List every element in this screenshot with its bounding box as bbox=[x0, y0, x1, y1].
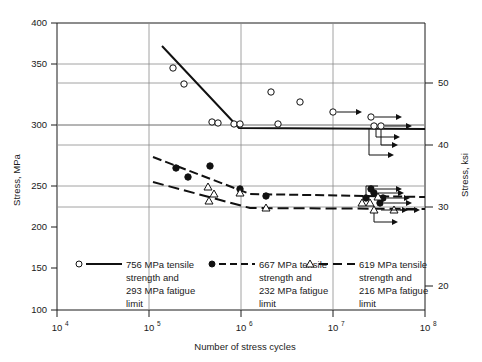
data-point bbox=[181, 81, 187, 87]
data-point bbox=[173, 165, 179, 171]
runout-arrowhead bbox=[356, 109, 362, 115]
ytick-right-label-30: 30 bbox=[438, 201, 449, 212]
ytick-label-150: 150 bbox=[31, 262, 47, 273]
right-axis-ticks bbox=[425, 83, 433, 286]
ytick-right-label-20: 20 bbox=[438, 280, 449, 291]
y-axis-title-left: Stress, MPa bbox=[11, 153, 22, 205]
x-axis-title: Number of stress cycles bbox=[194, 341, 296, 352]
runout-arrowhead bbox=[406, 200, 412, 206]
xtick-label-1e6: 10 6 bbox=[236, 320, 253, 333]
left-axis-labels: 400 350 300 250 200 150 100 bbox=[31, 17, 47, 315]
left-axis-ticks bbox=[51, 23, 57, 310]
series-667mpa-markers bbox=[173, 163, 386, 206]
legend-label-line1: 756 MPa tensile bbox=[126, 259, 194, 270]
xtick-base-1e5: 10 bbox=[144, 322, 155, 333]
runout-arrowhead bbox=[392, 142, 398, 148]
data-point bbox=[263, 193, 269, 199]
runout-arrowhead bbox=[388, 152, 394, 158]
xtick-exp-1e6: 6 bbox=[249, 320, 253, 327]
ytick-label-250: 250 bbox=[31, 180, 47, 191]
fatigue-sn-chart: 400 350 300 250 200 150 100 50 40 30 20 bbox=[0, 0, 482, 362]
legend-label-line2: strength and bbox=[259, 272, 312, 283]
legend-label-line4: limit bbox=[259, 298, 276, 309]
data-point bbox=[209, 119, 215, 125]
data-point bbox=[368, 114, 374, 120]
data-point bbox=[231, 121, 237, 127]
ytick-label-400: 400 bbox=[31, 17, 47, 28]
runout-elbow bbox=[374, 213, 392, 222]
runout-elbow bbox=[369, 129, 388, 155]
runout-arrowhead bbox=[394, 134, 400, 140]
data-point bbox=[377, 200, 383, 206]
xtick-label-1e4: 10 4 bbox=[52, 320, 69, 333]
series-667mpa-fitline bbox=[153, 157, 425, 197]
xtick-base-1e8: 10 bbox=[420, 322, 431, 333]
legend-label-line3: 232 MPa fatigue bbox=[259, 285, 328, 296]
legend-filled-circle-icon bbox=[209, 261, 215, 267]
legend-label-line3: 293 MPa fatigue bbox=[126, 285, 195, 296]
series-667mpa bbox=[153, 157, 425, 206]
ytick-right-label-40: 40 bbox=[438, 139, 449, 150]
legend-label-line2: strength and bbox=[359, 272, 412, 283]
data-point bbox=[207, 163, 213, 169]
data-point bbox=[205, 197, 213, 204]
data-point bbox=[185, 174, 191, 180]
runout-arrowhead bbox=[392, 219, 398, 225]
data-point bbox=[297, 99, 303, 105]
ytick-label-350: 350 bbox=[31, 58, 47, 69]
legend-label-line4: limit bbox=[126, 298, 143, 309]
data-point bbox=[371, 123, 377, 129]
series-756mpa-markers bbox=[170, 65, 384, 129]
data-point bbox=[275, 121, 281, 127]
chart-canvas: 400 350 300 250 200 150 100 50 40 30 20 bbox=[0, 0, 482, 362]
data-point bbox=[210, 190, 218, 197]
xtick-exp-1e5: 5 bbox=[157, 320, 161, 327]
ytick-label-100: 100 bbox=[31, 304, 47, 315]
data-point bbox=[268, 89, 274, 95]
runout-arrowhead bbox=[396, 114, 402, 120]
legend-label-line4: limit bbox=[359, 298, 376, 309]
legend-open-circle-icon bbox=[76, 261, 82, 267]
data-point bbox=[204, 183, 212, 190]
legend-label-line1: 619 MPa tensile bbox=[359, 259, 427, 270]
xtick-exp-1e4: 4 bbox=[65, 320, 69, 327]
series-756mpa bbox=[162, 46, 425, 158]
bottom-axis-ticks bbox=[57, 310, 425, 317]
legend-label-line3: 216 MPa fatigue bbox=[359, 285, 428, 296]
xtick-base-1e7: 10 bbox=[328, 322, 339, 333]
xtick-base-1e6: 10 bbox=[236, 322, 247, 333]
bottom-axis-labels: 10 4 10 5 10 6 10 7 10 8 bbox=[52, 320, 437, 333]
y-axis-title-right: Stress, ksi bbox=[459, 153, 470, 197]
data-point bbox=[215, 120, 221, 126]
data-point bbox=[378, 123, 384, 129]
xtick-label-1e7: 10 7 bbox=[328, 320, 345, 333]
xtick-exp-1e8: 8 bbox=[433, 320, 437, 327]
data-point bbox=[363, 195, 369, 201]
xtick-exp-1e7: 7 bbox=[341, 320, 345, 327]
data-point bbox=[237, 121, 243, 127]
ytick-label-200: 200 bbox=[31, 221, 47, 232]
legend-entry-756mpa[interactable]: 756 MPa tensile strength and 293 MPa fat… bbox=[76, 259, 195, 309]
legend-label-line2: strength and bbox=[126, 272, 179, 283]
runout-elbow bbox=[376, 129, 394, 137]
right-axis-labels: 50 40 30 20 bbox=[438, 77, 449, 291]
chart-legend: 756 MPa tensile strength and 293 MPa fat… bbox=[76, 259, 428, 309]
ytick-right-label-50: 50 bbox=[438, 77, 449, 88]
xtick-base-1e4: 10 bbox=[52, 322, 63, 333]
xtick-label-1e5: 10 5 bbox=[144, 320, 161, 333]
runout-arrowhead bbox=[398, 190, 404, 196]
runout-arrowhead bbox=[414, 207, 420, 213]
data-point bbox=[330, 109, 336, 115]
data-point bbox=[170, 65, 176, 71]
ytick-label-300: 300 bbox=[31, 119, 47, 130]
xtick-label-1e8: 10 8 bbox=[420, 320, 437, 333]
legend-label-line1: 667 MPa tensile bbox=[259, 259, 327, 270]
